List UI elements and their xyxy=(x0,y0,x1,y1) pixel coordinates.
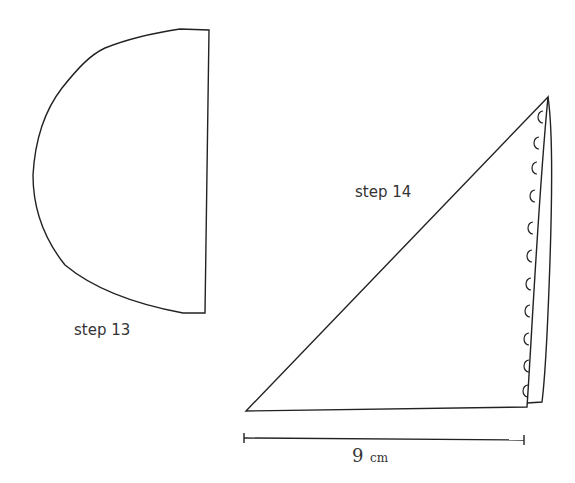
measurement-value: 9 xyxy=(352,445,363,466)
step13-half-circle xyxy=(33,29,209,313)
step13-label: step 13 xyxy=(74,321,130,339)
diagram-canvas: step 13 step 14 9 cm xyxy=(0,0,575,483)
step14-triangle xyxy=(246,97,548,411)
step14-label: step 14 xyxy=(355,183,411,201)
scallop-marks xyxy=(523,111,543,397)
measurement-line xyxy=(244,433,524,445)
measurement-unit: cm xyxy=(370,451,389,465)
